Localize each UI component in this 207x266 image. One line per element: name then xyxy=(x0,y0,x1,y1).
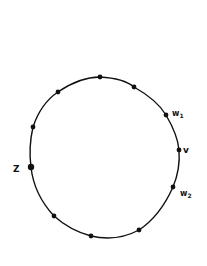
vertex-left xyxy=(31,125,36,130)
label-z: Z xyxy=(13,164,20,174)
label-v: v xyxy=(183,145,189,155)
vertex-v xyxy=(177,148,182,153)
cycle-edge xyxy=(30,77,179,238)
vertex-lower-left xyxy=(52,214,57,219)
vertex-top xyxy=(98,75,103,80)
vertex-lower-right xyxy=(137,228,142,233)
vertex-w2 xyxy=(171,185,176,190)
vertex-z xyxy=(28,164,34,170)
vertex-group xyxy=(28,75,182,239)
vertex-bottom xyxy=(89,234,94,239)
vertex-upper-right xyxy=(132,85,137,90)
vertex-upper-left xyxy=(56,90,61,95)
label-w2: w2 xyxy=(180,189,192,199)
vertex-w1 xyxy=(164,113,169,118)
cycle-diagram: w1 v w2 Z xyxy=(0,0,207,266)
label-w1: w1 xyxy=(172,109,184,119)
